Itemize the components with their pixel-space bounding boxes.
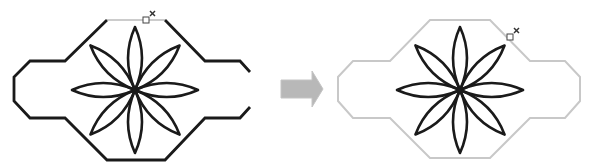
node-handle-icon[interactable] [143, 17, 149, 23]
flower-before [72, 27, 198, 153]
before-panel [14, 11, 250, 160]
node-handle-icon[interactable] [507, 34, 513, 40]
close-x-icon [150, 11, 155, 16]
close-x-icon [514, 28, 519, 33]
after-panel [338, 20, 580, 158]
diagram-canvas [0, 0, 596, 165]
arrow-right-icon [281, 71, 323, 107]
flower-after [397, 27, 523, 153]
